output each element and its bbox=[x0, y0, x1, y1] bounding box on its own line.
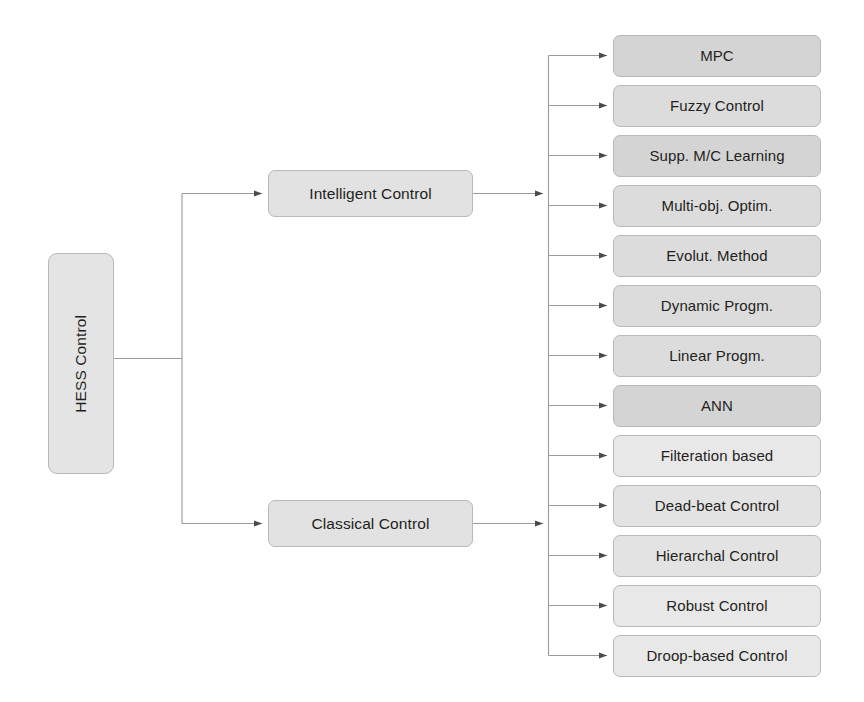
node-evolut-method-label: Evolut. Method bbox=[660, 247, 773, 264]
node-fuzzy-control-label: Fuzzy Control bbox=[664, 97, 770, 114]
node-dynamic-progm-label: Dynamic Progm. bbox=[655, 297, 779, 314]
node-intelligent-control-label: Intelligent Control bbox=[303, 185, 438, 203]
node-dead-beat-control-label: Dead-beat Control bbox=[649, 497, 785, 514]
node-intelligent-control[interactable]: Intelligent Control bbox=[268, 170, 473, 217]
node-fuzzy-control[interactable]: Fuzzy Control bbox=[613, 85, 821, 127]
node-linear-progm-label: Linear Progm. bbox=[663, 347, 771, 364]
node-multi-obj-optim-label: Multi-obj. Optim. bbox=[656, 197, 779, 214]
hess-control-diagram: HESS Control Intelligent Control Classic… bbox=[0, 0, 864, 702]
node-hierarchal-control-label: Hierarchal Control bbox=[650, 547, 785, 564]
node-multi-obj-optim[interactable]: Multi-obj. Optim. bbox=[613, 185, 821, 227]
node-mpc-label: MPC bbox=[694, 47, 740, 64]
node-droop-based-control[interactable]: Droop-based Control bbox=[613, 635, 821, 677]
node-supp-mc-learning-label: Supp. M/C Learning bbox=[643, 147, 790, 164]
node-dynamic-progm[interactable]: Dynamic Progm. bbox=[613, 285, 821, 327]
node-filteration-based[interactable]: Filteration based bbox=[613, 435, 821, 477]
node-linear-progm[interactable]: Linear Progm. bbox=[613, 335, 821, 377]
node-robust-control-label: Robust Control bbox=[660, 597, 773, 614]
node-filteration-based-label: Filteration based bbox=[655, 447, 780, 464]
node-droop-based-control-label: Droop-based Control bbox=[640, 647, 793, 664]
node-mpc[interactable]: MPC bbox=[613, 35, 821, 77]
node-ann-label: ANN bbox=[695, 397, 739, 414]
node-dead-beat-control[interactable]: Dead-beat Control bbox=[613, 485, 821, 527]
node-hierarchal-control[interactable]: Hierarchal Control bbox=[613, 535, 821, 577]
node-ann[interactable]: ANN bbox=[613, 385, 821, 427]
node-evolut-method[interactable]: Evolut. Method bbox=[613, 235, 821, 277]
node-hess-control-label: HESS Control bbox=[72, 309, 90, 419]
node-classical-control[interactable]: Classical Control bbox=[268, 500, 473, 547]
node-hess-control[interactable]: HESS Control bbox=[48, 253, 114, 474]
node-robust-control[interactable]: Robust Control bbox=[613, 585, 821, 627]
node-classical-control-label: Classical Control bbox=[306, 515, 436, 533]
node-supp-mc-learning[interactable]: Supp. M/C Learning bbox=[613, 135, 821, 177]
